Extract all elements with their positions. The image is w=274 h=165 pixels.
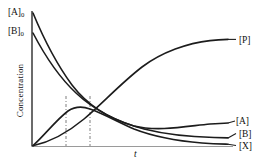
y-tick-label-A-initial: [A]0 [8,8,24,18]
series-label-P: [P] [239,36,250,46]
curve-B [33,33,228,138]
curve-X [33,107,228,145]
plot-canvas [0,0,274,165]
y-axis-title: Concentration [16,51,25,131]
leader-line-B [228,134,236,138]
y-tick-subscript-A: 0 [21,11,24,18]
y-tick-label-B-initial: [B]0 [8,27,24,37]
x-axis-title: t [134,150,137,160]
series-label-B: [B] [239,130,251,140]
y-tick-subscript-B: 0 [20,30,23,37]
leader-line-A [228,121,235,123]
series-label-A: [A] [236,117,249,127]
leader-line-X [228,144,236,145]
concentration-vs-time-figure: [A]0 [B]0 [P] [A] [B] [X] Concentration … [0,0,274,165]
series-label-X: [X] [239,142,252,152]
curve-A [33,13,228,129]
curve-P [33,39,228,145]
